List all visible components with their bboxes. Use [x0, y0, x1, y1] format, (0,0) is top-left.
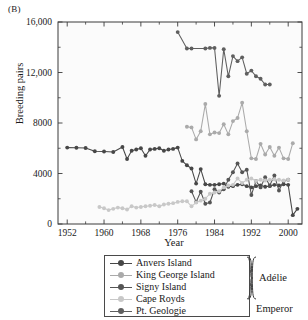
- series-point: [148, 148, 152, 152]
- series-point: [277, 189, 281, 193]
- series-point: [213, 183, 217, 187]
- series-point: [282, 178, 286, 182]
- series-point: [139, 146, 143, 150]
- series-point: [130, 204, 134, 208]
- series-point: [240, 170, 244, 174]
- x-tick-label: 1976: [168, 228, 187, 238]
- series-point: [74, 146, 78, 150]
- series-point: [176, 30, 180, 34]
- series-point: [208, 201, 212, 205]
- series-point: [199, 199, 203, 203]
- series-point: [226, 132, 230, 136]
- series-point: [286, 157, 290, 161]
- legend-item-king-george-island[interactable]: King George Island: [110, 269, 215, 281]
- series-point: [231, 119, 235, 123]
- series-point: [134, 206, 138, 210]
- series-point: [217, 131, 221, 135]
- series-point: [272, 177, 276, 181]
- series-point: [65, 146, 69, 150]
- adelie-brace-icon: [246, 256, 258, 300]
- series-point: [277, 146, 281, 150]
- series-point: [245, 184, 249, 188]
- series-point: [263, 185, 267, 189]
- legend-group-adelie-label: Adélie: [259, 272, 287, 283]
- series-point: [190, 204, 194, 208]
- series-point: [185, 125, 189, 129]
- series-point: [236, 59, 240, 63]
- series-point: [272, 154, 276, 158]
- series-point: [208, 46, 212, 50]
- series-point: [231, 170, 235, 174]
- series-point: [263, 153, 267, 157]
- series-point: [263, 178, 267, 182]
- series-point: [167, 202, 171, 206]
- series-point: [245, 178, 249, 182]
- series-point: [259, 77, 263, 81]
- plot-background: [58, 22, 302, 224]
- x-tick-label: 1952: [58, 228, 77, 238]
- legend-label-pt-geologie: Pt. Geologie: [136, 306, 186, 316]
- series-point: [162, 202, 166, 206]
- series-point: [226, 184, 230, 188]
- series-point: [217, 189, 221, 193]
- series-point: [231, 183, 235, 187]
- series-point: [171, 147, 175, 151]
- y-tick-label: 8000: [33, 118, 52, 128]
- legend-item-pt-geologie[interactable]: Pt. Geologie: [110, 305, 186, 317]
- series-point: [259, 178, 263, 182]
- series-point: [291, 141, 295, 145]
- series-point: [125, 157, 129, 161]
- chart-svg: 04000800012,00016,000 195219601968197619…: [0, 0, 308, 250]
- series-point: [226, 74, 230, 78]
- series-point: [144, 204, 148, 208]
- chart-plot-area: 04000800012,00016,000 195219601968197619…: [0, 0, 308, 250]
- y-tick-labels: 04000800012,00016,000: [26, 17, 52, 229]
- series-point: [153, 147, 157, 151]
- x-tick-label: 1984: [205, 228, 224, 238]
- series-point: [249, 193, 253, 197]
- series-point: [259, 142, 263, 146]
- x-tick-label: 2000: [279, 228, 298, 238]
- series-point: [203, 197, 207, 201]
- series-point: [277, 178, 281, 182]
- series-point: [286, 178, 290, 182]
- legend-marker-cape-royds: [110, 294, 132, 304]
- series-point: [268, 145, 272, 149]
- legend-marker-anvers-island: [110, 258, 132, 268]
- series-point: [194, 137, 198, 141]
- series-point: [190, 125, 194, 129]
- series-point: [213, 131, 217, 135]
- series-point: [291, 213, 295, 217]
- legend-marker-king-george-island: [110, 270, 132, 280]
- series-point: [245, 129, 249, 133]
- series-point: [222, 182, 226, 186]
- series-point: [208, 132, 212, 136]
- series-point: [134, 148, 138, 152]
- series-point: [217, 182, 221, 186]
- legend-item-anvers-island[interactable]: Anvers Island: [110, 257, 192, 269]
- legend-item-cape-royds[interactable]: Cape Royds: [110, 293, 185, 305]
- series-point: [245, 168, 249, 172]
- series-point: [240, 101, 244, 105]
- series-point: [203, 182, 207, 186]
- series-point: [240, 55, 244, 59]
- series-point: [231, 54, 235, 58]
- series-point: [130, 149, 134, 153]
- series-point: [249, 69, 253, 73]
- series-point: [153, 203, 157, 207]
- series-point: [139, 205, 143, 209]
- legend-item-signy-island[interactable]: Signy Island: [110, 281, 186, 293]
- series-point: [180, 159, 184, 163]
- legend-marker-signy-island: [110, 282, 132, 292]
- series-point: [222, 185, 226, 189]
- series-point: [208, 192, 212, 196]
- series-point: [167, 148, 171, 152]
- y-tick-label: 4000: [33, 169, 52, 179]
- series-point: [254, 179, 258, 183]
- series-point: [259, 185, 263, 189]
- x-tick-label: 1960: [95, 228, 114, 238]
- legend-label-anvers-island: Anvers Island: [136, 258, 192, 268]
- series-point: [190, 189, 194, 193]
- series-point: [111, 150, 115, 154]
- y-tick-label: 0: [47, 219, 52, 229]
